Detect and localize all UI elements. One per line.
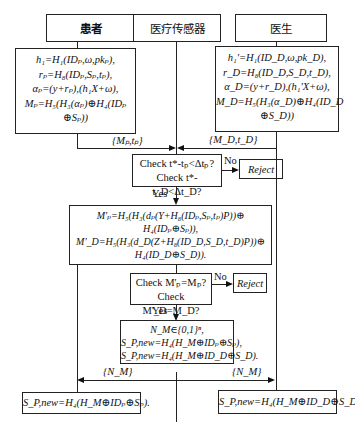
verify-computation-box: M'ₚ=H₅(H₃(dₚ(Y+H₈(IDₚ,Sₚ,tₚ)P))⊕ H₄(IDₚ⊕… bbox=[69, 205, 272, 265]
check-time-no-line bbox=[221, 170, 232, 171]
check-time-line: Check t*-tₚ<Δtₚ? bbox=[133, 157, 221, 171]
sensor-to-patient-label: {N_M} bbox=[103, 366, 132, 377]
check-m-no-label: No bbox=[214, 271, 227, 282]
doctor-formula-line: ⊕S_D)) bbox=[216, 109, 338, 124]
verify-formula-line: H₄(ID_D⊕S_D)). bbox=[70, 248, 271, 261]
doctor-box-connector bbox=[276, 131, 277, 149]
doctor-right-lifeline bbox=[276, 340, 277, 392]
patient-formula-line: h₁=H₁(IDₚ,ω,pkₚ), bbox=[16, 53, 135, 68]
doctor-result-box: S_P,new=H₄(H_M⊕ID_D⊕S_D). bbox=[218, 390, 337, 414]
doctor-result-formula: S_P,new=H₄(H_M⊕ID_D⊕S_D). bbox=[219, 395, 336, 410]
doctor-formula-line: M_D=H₅(H₃(α_D)⊕H₄(ID_D bbox=[216, 95, 338, 110]
doctor-message-label: {M_D,t_D} bbox=[209, 134, 257, 145]
patient-to-sensor-arrow bbox=[169, 145, 176, 151]
reject-m-box: Reject bbox=[233, 273, 267, 293]
update-formula-line: S_P,new=H₄(H_M⊕ID_D⊕S_D). bbox=[121, 349, 233, 362]
sensor-to-doctor-line bbox=[176, 380, 268, 381]
doctor-side-lifeline-mid bbox=[276, 148, 277, 340]
compute-to-check-m-line bbox=[176, 264, 177, 273]
sensor-to-doctor-arrow bbox=[268, 377, 275, 383]
doctor-to-sensor-arrow bbox=[177, 145, 184, 151]
check-time-box: Check t*-tₚ<Δtₚ? Check t*-t_D<Δt_D? bbox=[132, 154, 222, 187]
check-time-line: Check t*-t_D<Δt_D? bbox=[133, 171, 221, 199]
patient-left-lifeline bbox=[77, 340, 78, 348]
doctor-formula-line: h₁'=H₁(ID_D,ω,pk_D), bbox=[216, 51, 338, 66]
key-update-box: N_M∈{0,1}ⁿ, S_P,new=H₄(H_M⊕IDₚ⊕Sₚ), S_P,… bbox=[120, 320, 234, 364]
patient-formula-line: rₚ=H₈(IDₚ,Sₚ,tₚ), bbox=[16, 68, 135, 83]
check-time-no-label: No bbox=[224, 155, 237, 166]
check-m-line: Check M'ₚ=Mₚ? bbox=[131, 276, 211, 290]
check-m-line: Check M'_D=M_D? bbox=[131, 290, 211, 318]
check-m-no-arrow bbox=[226, 281, 233, 287]
doctor-to-sensor-line bbox=[184, 148, 276, 149]
patient-result-box: S_P,new=H₄(H_M⊕IDₚ⊕Sₚ). bbox=[22, 392, 141, 414]
check-m-no-line bbox=[211, 284, 226, 285]
verify-formula-line: M'ₚ=H₅(H₃(dₚ(Y+H₈(IDₚ,Sₚ,tₚ)P))⊕ bbox=[70, 209, 271, 222]
patient-result-formula: S_P,new=H₄(H_M⊕IDₚ⊕Sₚ). bbox=[23, 396, 140, 411]
doctor-computation-box: h₁'=H₁(ID_D,ω,pk_D), r_D=H₈(ID_D,S_D,t_D… bbox=[215, 46, 339, 132]
verify-formula-line: M'_D=H₅(H₃(d_D(Z+H₈(ID_D,S_D,t_D)P))⊕ bbox=[70, 235, 271, 248]
verify-formula-line: H₄(IDₚ⊕Sₚ)), bbox=[70, 222, 271, 235]
patient-box-connector bbox=[77, 133, 78, 149]
doctor-header: 医生 bbox=[235, 14, 327, 42]
sensor-to-patient-line bbox=[84, 380, 176, 381]
patient-formula-line: Mₚ=H₅(H₃(αₚ)⊕H₄(IDₚ bbox=[16, 97, 135, 112]
update-formula-line: N_M∈{0,1}ⁿ, bbox=[121, 323, 233, 336]
patient-lifeline-top bbox=[77, 41, 78, 48]
patient-to-sensor-line bbox=[77, 148, 169, 149]
update-formula-line: S_P,new=H₄(H_M⊕IDₚ⊕Sₚ), bbox=[121, 336, 233, 349]
sensor-lifeline bbox=[176, 41, 177, 148]
doctor-header-label: 医生 bbox=[270, 20, 292, 36]
check-m-box: Check M'ₚ=Mₚ? Check M'_D=M_D? bbox=[130, 273, 212, 305]
check-time-yes-arrow bbox=[173, 198, 179, 205]
check-time-no-arrow bbox=[232, 167, 239, 173]
reject-time-label: Reject bbox=[248, 164, 274, 175]
reject-m-label: Reject bbox=[237, 278, 263, 289]
sensor-header-label: 医疗传感器 bbox=[150, 20, 205, 36]
doctor-formula-line: α_D=(y+r_D),(h₁'X+ω), bbox=[216, 80, 338, 95]
doctor-formula-line: r_D=H₈(ID_D,S_D,t_D), bbox=[216, 66, 338, 81]
patient-message-label: {Mₚ,tₚ} bbox=[112, 134, 143, 146]
sensor-to-doctor-label: {N_M} bbox=[232, 366, 261, 377]
check-m-yes-label: Yes bbox=[152, 305, 167, 316]
patient-lifeline-lower bbox=[77, 348, 78, 392]
patient-formula-line: ⊕Sₚ)) bbox=[16, 111, 135, 126]
patient-formula-line: αₚ=(y+rₚ),(h₁X+ω), bbox=[16, 82, 135, 97]
patient-computation-box: h₁=H₁(IDₚ,ω,pkₚ), rₚ=H₈(IDₚ,Sₚ,tₚ), αₚ=(… bbox=[15, 48, 136, 134]
check-time-yes-label: Yes bbox=[152, 188, 167, 199]
sensor-to-patient-arrow bbox=[77, 377, 84, 383]
patient-header: 患者 bbox=[46, 14, 136, 42]
sensor-header: 医疗传感器 bbox=[133, 14, 221, 42]
patient-side-lifeline-mid bbox=[77, 265, 78, 340]
patient-header-label: 患者 bbox=[80, 20, 102, 36]
